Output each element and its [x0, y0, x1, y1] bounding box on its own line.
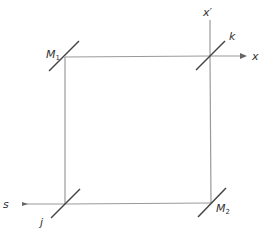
- label-x-prime: x′: [202, 6, 213, 19]
- source-arrow-icon: [22, 202, 28, 206]
- output-arrow-icon: [240, 53, 247, 59]
- label-x: x: [251, 50, 259, 63]
- label-m2: M2: [216, 202, 230, 216]
- beam-bottom: [65, 203, 211, 204]
- interferometer-diagram: M1 M2 k j s x x′: [0, 0, 267, 239]
- label-s: s: [3, 198, 9, 211]
- label-m1: M1: [46, 48, 60, 62]
- beam-right: [210, 56, 211, 203]
- beam-top: [65, 56, 210, 57]
- label-j: j: [38, 216, 44, 229]
- label-k: k: [229, 30, 236, 43]
